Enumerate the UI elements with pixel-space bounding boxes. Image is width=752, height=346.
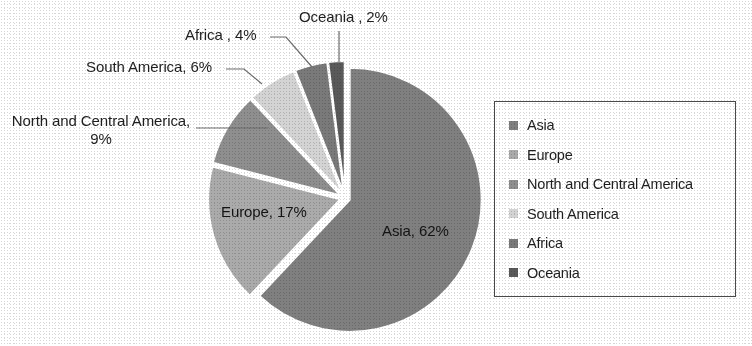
pie-data-label-south-america: South America, 6% — [86, 58, 212, 76]
legend-swatch-icon — [509, 239, 518, 248]
legend-swatch-icon — [509, 209, 518, 218]
legend-item-label: Europe — [527, 147, 573, 163]
legend-item-label: Oceania — [527, 265, 580, 281]
legend-swatch-icon — [509, 150, 518, 159]
legend-item[interactable]: Oceania — [509, 260, 735, 286]
legend-item-label: North and Central America — [527, 176, 693, 192]
legend-item-label: South America — [527, 206, 619, 222]
legend-swatch-icon — [509, 180, 518, 189]
pie-chart-figure: Asia, 62% Europe, 17% North and Central … — [0, 0, 752, 346]
pie-data-label-africa: Africa , 4% — [185, 26, 256, 44]
legend-item-label: Africa — [527, 235, 563, 251]
legend-swatch-icon — [509, 121, 518, 130]
legend-item[interactable]: Africa — [509, 230, 735, 256]
legend-item-label: Asia — [527, 117, 554, 133]
chart-legend: AsiaEuropeNorth and Central AmericaSouth… — [494, 101, 736, 297]
legend-swatch-icon — [509, 268, 518, 277]
pie-data-label-europe: Europe, 17% — [221, 203, 307, 221]
pie-data-label-north-and-central-america: North and Central America, 9% — [8, 112, 194, 149]
pie-data-label-asia: Asia, 62% — [382, 222, 449, 240]
leader-line-africa — [270, 37, 312, 67]
legend-item[interactable]: Europe — [509, 142, 735, 168]
legend-item[interactable]: North and Central America — [509, 171, 735, 197]
leader-line-south-america — [226, 69, 262, 84]
legend-item[interactable]: South America — [509, 201, 735, 227]
legend-item[interactable]: Asia — [509, 112, 735, 138]
pie-slice-group — [208, 61, 481, 332]
pie-data-label-oceania: Oceania , 2% — [299, 8, 388, 26]
